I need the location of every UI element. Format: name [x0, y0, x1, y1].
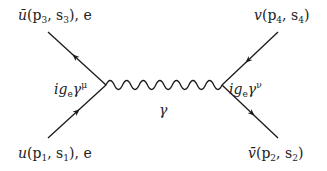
spinor-symbol: ū — [18, 7, 27, 23]
photon-propagator-line — [106, 81, 222, 90]
label-bottom-left-spinor: u(p1, s1), e — [18, 146, 92, 163]
args-close: ), e — [69, 145, 92, 161]
lorentz-index: ν — [256, 80, 261, 90]
args-open: (p — [262, 7, 276, 23]
args-close: ) — [298, 145, 303, 161]
args-open: (p — [256, 145, 270, 161]
label-vertex-left: igeγμ — [54, 81, 87, 99]
label-top-left-spinor: ū(p3, s3), e — [18, 8, 92, 25]
args-close: ) — [304, 7, 309, 23]
label-top-right-spinor: v(p4, s4) — [254, 8, 309, 25]
args-open: (p — [27, 145, 41, 161]
fermion-line-top-left — [48, 32, 106, 85]
vertex-coupling: ig — [54, 81, 67, 97]
separator: , s — [47, 7, 63, 23]
args-open: (p — [27, 7, 41, 23]
lorentz-index: μ — [81, 80, 87, 90]
separator: , s — [276, 145, 292, 161]
args-close: ), e — [69, 7, 92, 23]
label-vertex-right: igeγν — [229, 81, 262, 99]
spinor-symbol: u — [18, 145, 27, 161]
spinor-symbol: v — [254, 7, 262, 23]
label-bottom-right-spinor: v̄(p2, s2) — [248, 146, 303, 163]
vertex-coupling: ig — [229, 81, 242, 97]
label-photon: γ — [159, 103, 167, 117]
gamma-matrix: γ — [73, 81, 81, 97]
gamma-matrix: γ — [248, 81, 256, 97]
separator: , s — [282, 7, 298, 23]
separator: , s — [47, 145, 63, 161]
fermion-line-top-right — [222, 32, 278, 85]
spinor-symbol: v̄ — [248, 145, 256, 161]
